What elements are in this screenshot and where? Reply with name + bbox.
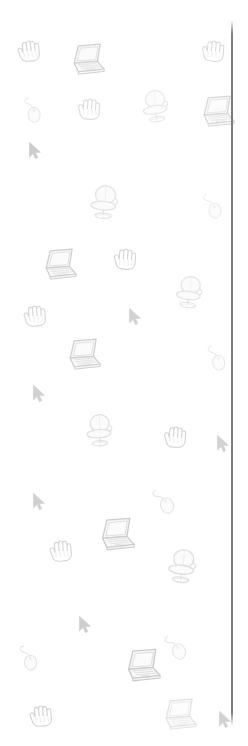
hand-cursor-icon bbox=[25, 702, 57, 734]
arrow-cursor-icon bbox=[28, 382, 52, 406]
arrow-cursor-icon bbox=[74, 613, 98, 637]
hand-cursor-icon bbox=[13, 37, 46, 70]
arrow-cursor-icon bbox=[28, 490, 52, 514]
hand-cursor-icon bbox=[109, 245, 141, 277]
hand-cursor-icon bbox=[73, 95, 105, 127]
laptop-icon bbox=[158, 695, 198, 735]
office-chair-icon bbox=[160, 543, 206, 589]
hand-cursor-icon bbox=[197, 37, 230, 70]
mouse-icon bbox=[153, 623, 198, 668]
laptop-icon bbox=[120, 645, 162, 687]
office-chair-icon bbox=[168, 270, 212, 314]
mouse-icon bbox=[16, 92, 50, 126]
laptop-icon bbox=[196, 92, 236, 132]
arrow-cursor-icon bbox=[24, 139, 48, 163]
office-chair-icon bbox=[79, 409, 122, 452]
vertical-divider-line bbox=[231, 20, 233, 726]
hand-cursor-icon bbox=[45, 537, 77, 569]
laptop-icon bbox=[66, 40, 106, 80]
laptop-icon bbox=[62, 335, 102, 375]
office-chair-icon bbox=[133, 83, 178, 128]
hand-cursor-icon bbox=[19, 302, 51, 334]
laptop-icon bbox=[38, 245, 78, 285]
hand-cursor-icon bbox=[159, 423, 191, 455]
mouse-icon bbox=[141, 477, 186, 522]
arrow-cursor-icon bbox=[214, 708, 238, 732]
icon-scatter-panel bbox=[0, 0, 248, 746]
arrow-cursor-icon bbox=[124, 305, 148, 329]
laptop-icon bbox=[94, 514, 136, 556]
office-chair-icon bbox=[83, 180, 128, 225]
mouse-icon bbox=[11, 639, 47, 675]
mouse-icon bbox=[194, 186, 232, 224]
